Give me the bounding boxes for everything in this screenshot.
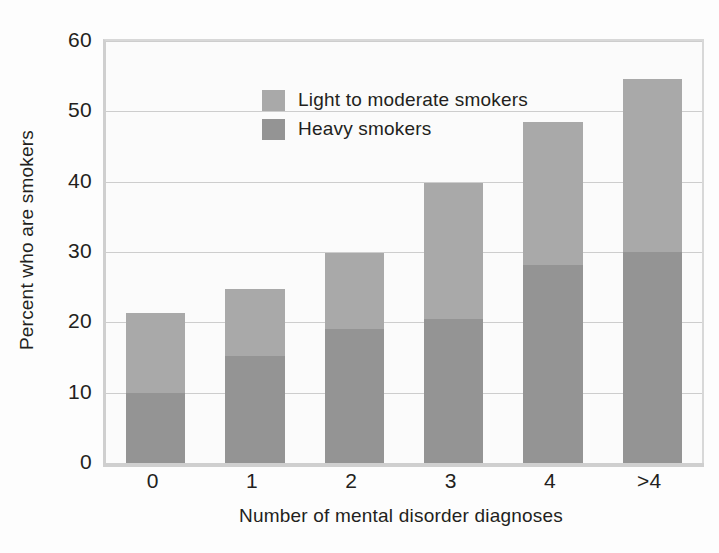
gridline (106, 322, 702, 323)
x-axis-tick-labels: 01234>4 (103, 470, 699, 500)
bar-segment-heavy-smokers (623, 252, 683, 463)
bar-segment-light-to-moderate-smokers (623, 79, 683, 252)
y-tick-label: 10 (8, 380, 92, 401)
x-axis-title: Number of mental disorder diagnoses (103, 505, 699, 527)
x-axis-baseline (103, 463, 704, 467)
bar-segment-heavy-smokers (325, 329, 385, 463)
bar-stack (225, 289, 285, 463)
bar-stack (424, 183, 484, 463)
gridline (106, 252, 702, 253)
x-tick-label: 1 (246, 470, 258, 491)
y-axis-tick-labels: 0102030405060 (0, 39, 92, 461)
y-tick-label: 40 (8, 169, 92, 190)
legend-swatch-light-to-moderate-smokers (262, 90, 285, 111)
legend-item-light-to-moderate-smokers: Light to moderate smokers (262, 87, 528, 113)
y-tick-label: 0 (8, 451, 92, 472)
bar-stack (623, 79, 683, 463)
bar-segment-light-to-moderate-smokers (523, 122, 583, 265)
y-tick-label: 60 (8, 29, 92, 50)
x-tick-label: >4 (637, 470, 662, 491)
plot-area: Light to moderate smokers Heavy smokers (103, 39, 704, 463)
bar-stack (126, 313, 186, 463)
bar-segment-light-to-moderate-smokers (424, 183, 484, 319)
x-tick-label: 2 (345, 470, 357, 491)
x-tick-label: 4 (544, 470, 556, 491)
bar-segment-light-to-moderate-smokers (126, 313, 186, 392)
y-tick-label: 30 (8, 240, 92, 261)
bar-segment-heavy-smokers (126, 393, 186, 463)
bar-segment-light-to-moderate-smokers (325, 253, 385, 329)
bar-segment-heavy-smokers (523, 265, 583, 463)
gridline (106, 41, 702, 42)
y-tick-label: 20 (8, 310, 92, 331)
bar-segment-heavy-smokers (424, 319, 484, 463)
legend-swatch-heavy-smokers (262, 119, 285, 140)
gridline (106, 182, 702, 183)
bar-chart-figure: Percent who are smokers 0102030405060 Li… (0, 0, 719, 553)
legend: Light to moderate smokers Heavy smokers (262, 87, 528, 145)
legend-label-light-to-moderate-smokers: Light to moderate smokers (298, 89, 528, 111)
legend-item-heavy-smokers: Heavy smokers (262, 116, 528, 142)
y-tick-label: 50 (8, 99, 92, 120)
gridline (106, 393, 702, 394)
x-tick-label: 3 (445, 470, 457, 491)
legend-label-heavy-smokers: Heavy smokers (298, 118, 432, 140)
bar-stack (523, 122, 583, 463)
bar-stack (325, 253, 385, 463)
x-tick-label: 0 (147, 470, 159, 491)
bar-segment-heavy-smokers (225, 356, 285, 463)
bar-segment-light-to-moderate-smokers (225, 289, 285, 357)
